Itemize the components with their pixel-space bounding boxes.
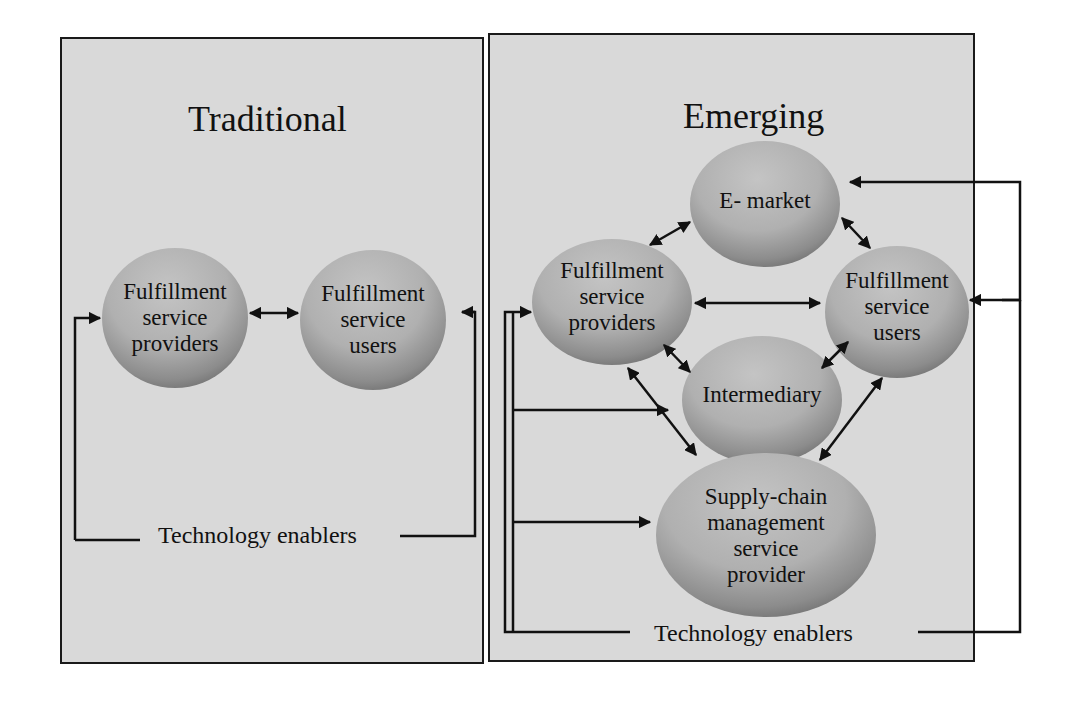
trad-technology-enablers-label: Technology enablers: [152, 522, 363, 549]
emerging-title: Emerging: [683, 95, 824, 137]
intermediary-node: Intermediary: [682, 380, 842, 410]
trad-providers-node: Fulfillment service providers: [102, 258, 248, 378]
em-technology-enablers-label: Technology enablers: [648, 620, 859, 647]
scm-node: Supply-chain management service provider: [660, 478, 872, 594]
emarket-node: E- market: [690, 186, 840, 216]
trad-users-node: Fulfillment service users: [300, 260, 446, 380]
em-users-node: Fulfillment service users: [825, 262, 969, 352]
em-providers-node: Fulfillment service providers: [532, 252, 692, 342]
traditional-title: Traditional: [188, 98, 347, 140]
